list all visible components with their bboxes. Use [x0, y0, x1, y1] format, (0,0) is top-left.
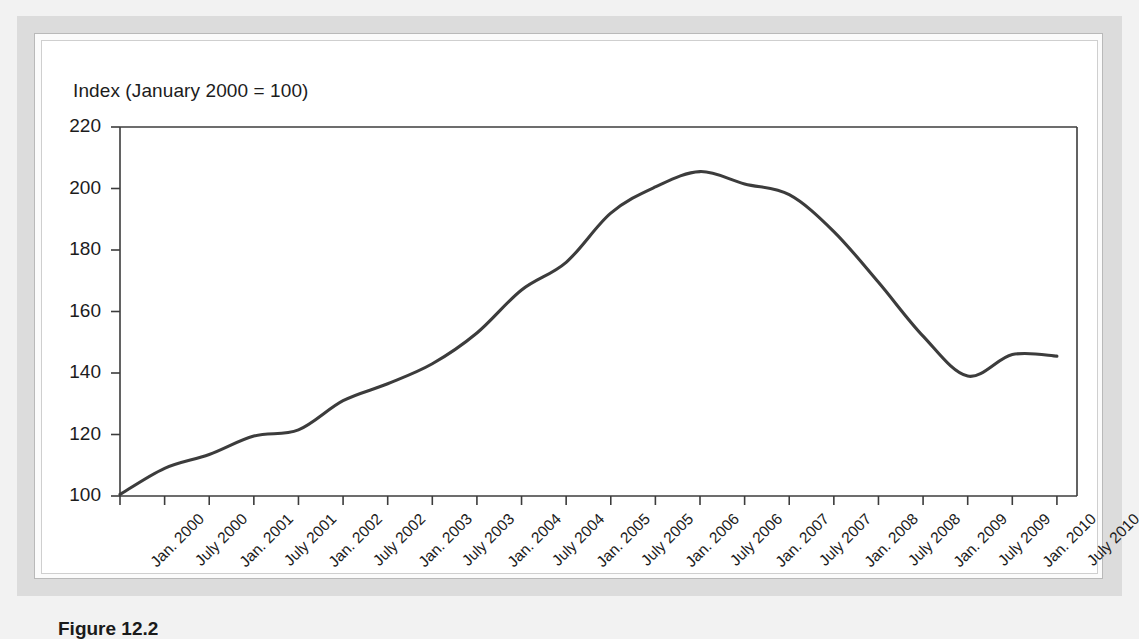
y-tick-label: 120: [53, 423, 101, 445]
figure-caption: Figure 12.2: [58, 618, 158, 639]
y-tick-label: 200: [53, 177, 101, 199]
y-tick-label: 160: [53, 300, 101, 322]
y-tick-label: 100: [53, 484, 101, 506]
y-axis-ticks: [111, 127, 120, 496]
y-tick-label: 140: [53, 361, 101, 383]
y-tick-label: 180: [53, 238, 101, 260]
data-series-line: [120, 172, 1057, 495]
plot-axes: [120, 127, 1077, 496]
y-tick-label: 220: [53, 115, 101, 137]
x-axis-ticks: [120, 496, 1057, 505]
